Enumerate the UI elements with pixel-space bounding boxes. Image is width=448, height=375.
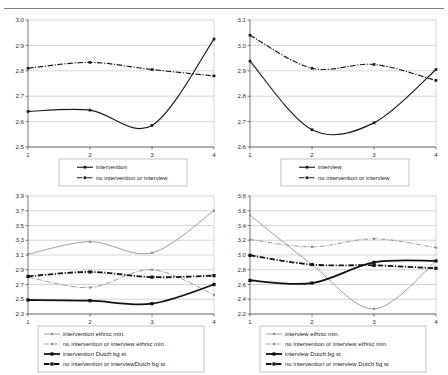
chart-bottom-left: 2.32.52.72.93.13.33.53.73.91234intervent… — [4, 188, 224, 374]
legend: interviewno intervention or interview — [281, 159, 409, 186]
y-axis-tick-labels: 2.52.62.72.82.93.0 — [15, 16, 28, 150]
svg-text:2.2: 2.2 — [237, 310, 246, 317]
legend-label: interview ethnic min. — [285, 331, 340, 337]
legend-label: no intervention or interview — [318, 175, 390, 181]
series-line — [249, 34, 438, 82]
series-line — [27, 269, 215, 296]
svg-text:1: 1 — [248, 318, 252, 325]
x-axis-tick-labels: 1234 — [26, 314, 216, 325]
svg-text:2.5: 2.5 — [15, 295, 24, 302]
svg-text:2.6: 2.6 — [237, 281, 246, 288]
series-line — [248, 259, 437, 284]
svg-text:4: 4 — [212, 151, 216, 158]
legend: intervention ethnic min.no intervention … — [38, 326, 204, 372]
svg-text:4: 4 — [434, 151, 438, 158]
svg-text:3.2: 3.2 — [237, 236, 246, 243]
svg-text:2: 2 — [310, 318, 314, 325]
x-axis-tick-labels: 1234 — [248, 147, 438, 158]
svg-text:2.6: 2.6 — [15, 118, 24, 125]
y-axis-tick-labels: 2.62.72.82.93.03.1 — [237, 16, 250, 150]
svg-text:3.9: 3.9 — [15, 192, 24, 199]
chart-bottom-right-svg: 2.22.42.62.83.03.23.43.63.81234interview… — [226, 188, 446, 374]
svg-text:2.7: 2.7 — [15, 92, 24, 99]
svg-text:3.7: 3.7 — [15, 207, 24, 214]
svg-text:3.3: 3.3 — [15, 236, 24, 243]
series-line — [27, 61, 216, 77]
figure-page: 2.52.62.72.82.93.01234interventionno int… — [0, 0, 448, 375]
legend-item: no intervention or interview ethnic min. — [44, 341, 166, 347]
series-line — [249, 214, 437, 310]
legend-item: no intervention or interviewDutch bg st — [44, 361, 165, 367]
svg-text:3: 3 — [150, 318, 154, 325]
svg-text:3.8: 3.8 — [237, 192, 246, 199]
svg-text:3.4: 3.4 — [237, 222, 246, 229]
series-line — [26, 283, 215, 305]
axes — [250, 20, 436, 147]
svg-text:2.4: 2.4 — [237, 295, 246, 302]
chart-bottom-left-svg: 2.32.52.72.93.13.33.53.73.91234intervent… — [4, 188, 224, 374]
svg-text:2.5: 2.5 — [15, 143, 24, 150]
y-axis-tick-labels: 2.22.42.62.83.03.23.43.63.8 — [237, 192, 250, 317]
chart-top-right-svg: 2.62.72.82.93.03.11234interviewno interv… — [226, 12, 446, 187]
svg-text:1: 1 — [248, 151, 252, 158]
svg-text:3.5: 3.5 — [15, 222, 24, 229]
svg-text:2: 2 — [88, 151, 92, 158]
series-line — [249, 238, 437, 249]
svg-text:3.1: 3.1 — [15, 251, 24, 258]
legend-label: no intervention or interview ethnic min. — [63, 341, 166, 347]
svg-text:3: 3 — [372, 318, 376, 325]
legend-label: no intervention or interviewDutch bg st — [63, 361, 165, 367]
legend-label: no intervention or interview — [96, 175, 168, 181]
series-line — [27, 210, 215, 256]
chart-bottom-right: 2.22.42.62.83.03.23.43.63.81234interview… — [226, 188, 446, 374]
series-line — [26, 270, 215, 278]
legend-label: intervention — [96, 164, 127, 170]
series-line — [27, 38, 216, 129]
svg-text:2.8: 2.8 — [237, 266, 246, 273]
x-axis-tick-labels: 1234 — [248, 314, 438, 325]
svg-text:3.1: 3.1 — [237, 16, 246, 23]
svg-text:3.0: 3.0 — [237, 251, 246, 258]
gridlines — [250, 196, 436, 314]
svg-text:2.9: 2.9 — [15, 42, 24, 49]
svg-text:4: 4 — [212, 318, 216, 325]
chart-top-left: 2.52.62.72.82.93.01234interventionno int… — [4, 12, 224, 187]
y-axis-tick-labels: 2.32.52.72.93.13.33.53.73.9 — [15, 192, 28, 317]
svg-text:2.8: 2.8 — [15, 67, 24, 74]
svg-text:2.7: 2.7 — [15, 281, 24, 288]
legend-label: no intervention or interview ethnic min. — [285, 341, 388, 347]
gridlines — [250, 20, 436, 147]
svg-text:3.0: 3.0 — [15, 16, 24, 23]
legend-label: intervention Dutch bg st — [63, 351, 126, 357]
legend: interview ethnic min.no intervention or … — [260, 326, 426, 372]
gridlines — [28, 196, 214, 314]
svg-text:2: 2 — [310, 151, 314, 158]
chart-top-left-svg: 2.52.62.72.82.93.01234interventionno int… — [4, 12, 224, 187]
svg-text:3: 3 — [150, 151, 154, 158]
legend-item: no intervention or interview Dutch bg st — [266, 361, 389, 367]
legend: interventionno intervention or interview — [59, 159, 187, 186]
legend-label: interview — [318, 164, 342, 170]
svg-text:2.7: 2.7 — [237, 118, 246, 125]
top-horizontal-rule — [4, 8, 444, 9]
x-axis-tick-labels: 1234 — [26, 147, 216, 158]
svg-text:2: 2 — [88, 318, 92, 325]
svg-text:3.0: 3.0 — [237, 42, 246, 49]
svg-text:1: 1 — [26, 318, 30, 325]
legend-label: intervention ethnic min. — [63, 331, 125, 337]
series-line — [248, 254, 437, 270]
svg-text:2.9: 2.9 — [15, 266, 24, 273]
svg-text:2.3: 2.3 — [15, 310, 24, 317]
legend-item: no intervention or interview ethnic min. — [266, 341, 388, 347]
chart-top-right: 2.62.72.82.93.03.11234interviewno interv… — [226, 12, 446, 187]
svg-text:2.6: 2.6 — [237, 143, 246, 150]
legend-label: interview Dutch bg st — [285, 351, 341, 357]
svg-text:3: 3 — [372, 151, 376, 158]
svg-text:4: 4 — [434, 318, 438, 325]
svg-text:3.6: 3.6 — [237, 207, 246, 214]
svg-text:1: 1 — [26, 151, 30, 158]
svg-text:2.9: 2.9 — [237, 67, 246, 74]
legend-label: no intervention or interview Dutch bg st — [285, 361, 389, 367]
svg-text:2.8: 2.8 — [237, 92, 246, 99]
